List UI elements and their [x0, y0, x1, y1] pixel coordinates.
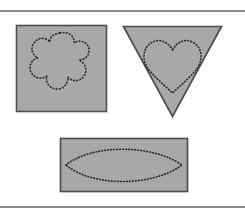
top-horizontal-rule	[0, 10, 245, 12]
bottom-horizontal-rule	[0, 206, 245, 208]
panel-square-flower	[17, 26, 107, 112]
inverted-triangle-container	[124, 27, 222, 117]
panel-rectangle-lens	[61, 139, 188, 192]
rectangle-container	[61, 139, 188, 192]
panel-triangle-heart	[124, 27, 222, 117]
figure-canvas	[0, 0, 245, 220]
shapes-illustration	[0, 0, 245, 220]
